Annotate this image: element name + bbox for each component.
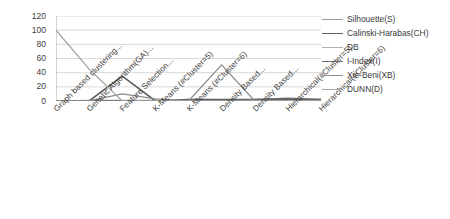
y-tick-label: 20 — [0, 82, 46, 91]
y-tick-label: 100 — [0, 26, 46, 35]
legend-item[interactable]: Silhouette(S) — [322, 13, 450, 27]
legend-label: Xie-Beni(XB) — [347, 71, 395, 80]
y-tick-label: 60 — [0, 54, 46, 63]
legend-label: DUNN(D) — [347, 85, 383, 94]
clustering-validity-line-chart: 020406080100120 Graph based clustering..… — [0, 0, 450, 219]
legend-line-icon — [322, 61, 343, 62]
legend-item[interactable]: Xie-Beni(XB) — [322, 69, 450, 83]
y-tick-label: 80 — [0, 40, 46, 49]
chart-legend: Silhouette(S)Calinski-Harabas(CH)DBI-Ind… — [322, 13, 450, 97]
legend-line-icon — [322, 19, 343, 20]
legend-label: Silhouette(S) — [347, 15, 395, 24]
legend-line-icon — [322, 75, 343, 76]
legend-label: I-Index(I) — [347, 57, 381, 66]
legend-label: DB — [347, 43, 359, 52]
legend-item[interactable]: DB — [322, 41, 450, 55]
x-axis: Graph based clustering...Genetic Algorit… — [0, 101, 340, 219]
legend-label: Calinski-Harabas(CH) — [347, 29, 428, 38]
y-tick-label: 120 — [0, 12, 46, 21]
legend-line-icon — [322, 89, 343, 90]
y-axis: 020406080100120 — [0, 10, 52, 106]
y-tick-label: 40 — [0, 68, 46, 77]
legend-item[interactable]: DUNN(D) — [322, 83, 450, 97]
legend-line-icon — [322, 33, 343, 34]
legend-item[interactable]: Calinski-Harabas(CH) — [322, 27, 450, 41]
legend-item[interactable]: I-Index(I) — [322, 55, 450, 69]
legend-line-icon — [322, 47, 343, 48]
